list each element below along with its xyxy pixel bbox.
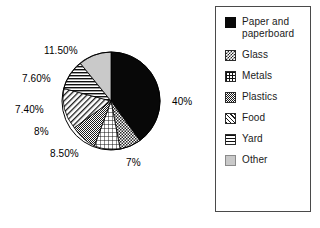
pie-label-food: 7.40% (15, 104, 44, 115)
pie-label-paper: 40% (172, 96, 192, 107)
legend-swatch-yard-icon (225, 134, 236, 145)
legend-swatch-glass-icon (225, 50, 236, 61)
legend-label-metals: Metals (242, 70, 272, 82)
legend-swatch-food-icon (225, 113, 236, 124)
legend-label-yard: Yard (242, 133, 263, 145)
chart-screenshot: 40% 7% 8.50% 8% 7.40% 7.60% 11.50% Paper… (0, 0, 320, 228)
legend-label-other: Other (242, 154, 268, 166)
legend-label-plastics: Plastics (242, 91, 277, 103)
pie-chart-area: 40% 7% 8.50% 8% 7.40% 7.60% 11.50% (0, 0, 212, 228)
legend-item-metals: Metals (225, 70, 306, 82)
legend-item-other: Other (225, 154, 306, 166)
chart-legend: Paper and paperboard Glass Metals Plasti… (215, 6, 311, 212)
legend-item-paper-and-paperboard: Paper and paperboard (225, 16, 306, 40)
legend-item-plastics: Plastics (225, 91, 306, 103)
legend-item-glass: Glass (225, 49, 306, 61)
pie-label-plastics: 8% (34, 126, 49, 137)
legend-swatch-paper-icon (225, 17, 236, 28)
legend-swatch-other-icon (225, 155, 236, 166)
legend-swatch-metals-icon (225, 71, 236, 82)
legend-swatch-plastics-icon (225, 92, 236, 103)
legend-item-food: Food (225, 112, 306, 124)
pie-label-yard: 7.60% (22, 73, 51, 84)
legend-label-paper: Paper and paperboard (242, 16, 306, 40)
legend-item-yard: Yard (225, 133, 306, 145)
pie-label-metals: 8.50% (50, 148, 79, 159)
legend-item-list: Paper and paperboard Glass Metals Plasti… (225, 16, 306, 166)
legend-label-glass: Glass (242, 49, 268, 61)
pie-label-other: 11.50% (44, 45, 78, 56)
pie-label-glass: 7% (126, 157, 141, 168)
legend-label-food: Food (242, 112, 265, 124)
